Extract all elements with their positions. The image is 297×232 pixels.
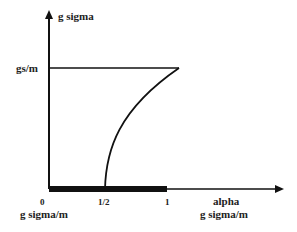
x-tick-one: 1 — [165, 197, 170, 207]
curve — [105, 68, 179, 189]
x-tick-half: 1/2 — [98, 197, 110, 207]
x-axis-arrow-icon — [275, 185, 284, 193]
y-tick-label: gs/m — [16, 62, 38, 74]
y-axis-label: g sigma — [58, 10, 94, 22]
x-axis-sublabel: g sigma/m — [200, 208, 248, 220]
x-origin-label: 0 — [40, 197, 45, 207]
x-axis-label: alpha — [213, 195, 240, 207]
diagram: g sigma gs/m 0 g sigma/m 1/2 1 alpha g s… — [0, 0, 297, 232]
diagram-canvas: g sigma gs/m 0 g sigma/m 1/2 1 alpha g s… — [0, 0, 297, 232]
interval-bar — [49, 186, 167, 192]
y-axis-arrow-icon — [45, 10, 53, 19]
x-origin-sublabel: g sigma/m — [20, 208, 68, 220]
